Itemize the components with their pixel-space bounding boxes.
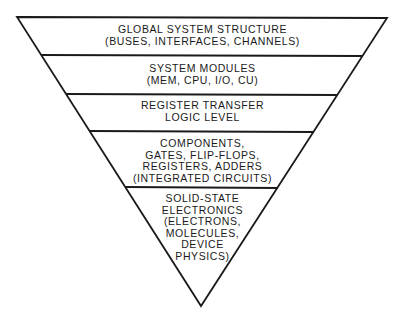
level-3-line-1: REGISTER TRANSFER [0,100,405,112]
level-1-line-2: (BUSES, INTERFACES, CHANNELS) [0,36,405,48]
level-5-line-3: (ELECTRONS, [0,216,405,228]
divider-1 [41,55,362,56]
divider-2 [66,94,337,95]
divider-3 [89,131,313,132]
level-components: COMPONENTS, GATES, FLIP-FLOPS, REGISTERS… [0,138,405,184]
level-4-line-3: REGISTERS, ADDERS [0,161,405,173]
level-2-line-2: (MEM, CPU, I/O, CU) [0,75,405,87]
level-4-line-4: (INTEGRATED CIRCUITS) [0,173,405,185]
level-global-system-structure: GLOBAL SYSTEM STRUCTURE (BUSES, INTERFAC… [0,24,405,47]
level-5-line-5: DEVICE [0,239,405,251]
level-system-modules: SYSTEM MODULES (MEM, CPU, I/O, CU) [0,63,405,86]
level-5-line-1: SOLID-STATE [0,193,405,205]
level-2-line-1: SYSTEM MODULES [0,63,405,75]
level-1-line-1: GLOBAL SYSTEM STRUCTURE [0,24,405,36]
level-5-line-6: PHYSICS) [0,251,405,263]
level-4-line-1: COMPONENTS, [0,138,405,150]
level-register-transfer: REGISTER TRANSFER LOGIC LEVEL [0,100,405,123]
level-solid-state-electronics: SOLID-STATE ELECTRONICS (ELECTRONS, MOLE… [0,193,405,262]
level-3-line-2: LOGIC LEVEL [0,112,405,124]
divider-4 [126,187,278,188]
